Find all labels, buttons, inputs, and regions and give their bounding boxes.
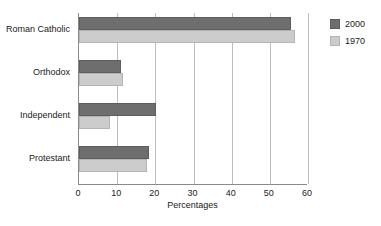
category-label: Orthodox [0, 67, 70, 77]
bar-1970 [79, 30, 295, 43]
bar-group [79, 146, 307, 172]
bar-2000 [79, 103, 156, 116]
legend-item: 2000 [330, 17, 380, 31]
x-tick-label: 0 [63, 188, 93, 198]
bar-1970 [79, 159, 147, 172]
chart-legend: 20001970 [330, 17, 380, 51]
bar-chart-figure: Roman CatholicOrthodoxIndependentProtest… [0, 0, 381, 226]
bar-2000 [79, 60, 121, 73]
bar-1970 [79, 73, 123, 86]
category-axis-labels: Roman CatholicOrthodoxIndependentProtest… [0, 13, 74, 185]
bar-group [79, 103, 307, 129]
x-axis-title: Percentages [78, 200, 307, 210]
plot-area [78, 13, 307, 185]
legend-label: 1970 [345, 36, 365, 46]
bar-2000 [79, 146, 149, 159]
x-tick-label: 10 [101, 188, 131, 198]
category-label: Roman Catholic [0, 24, 70, 34]
x-tick-label: 50 [254, 188, 284, 198]
gridline [308, 13, 309, 184]
bar-1970 [79, 116, 110, 129]
bar-group [79, 60, 307, 86]
legend-item: 1970 [330, 34, 380, 48]
category-label: Independent [0, 110, 70, 120]
legend-swatch-icon [330, 19, 340, 29]
legend-label: 2000 [345, 19, 365, 29]
x-tick-label: 20 [139, 188, 169, 198]
bar-group [79, 17, 307, 43]
legend-swatch-icon [330, 36, 340, 46]
x-tick-label: 30 [178, 188, 208, 198]
x-tick-label: 40 [216, 188, 246, 198]
category-label: Protestant [0, 153, 70, 163]
bar-2000 [79, 17, 291, 30]
x-tick-label: 60 [292, 188, 322, 198]
